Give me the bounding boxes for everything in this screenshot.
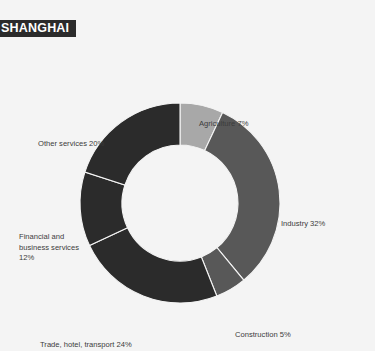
slice-label-financial-business-services: Financial and business services 12%: [19, 232, 85, 264]
donut-chart: Agriculture 7% Industry 32% Construction…: [0, 40, 375, 343]
page-title: SHANGHAI: [1, 22, 69, 35]
slice-label-other-services: Other services 20%: [38, 139, 104, 150]
donut-slice-group: [80, 103, 280, 303]
slice-label-agriculture: Agriculture 7%: [199, 119, 248, 130]
donut-slice: [90, 228, 217, 303]
page-header-bar: SHANGHAI: [0, 20, 76, 37]
slice-label-trade-hotel-transport: Trade, hotel, transport 24%: [40, 340, 132, 351]
slice-label-construction: Construction 5%: [235, 330, 291, 341]
slice-label-industry: Industry 32%: [281, 219, 325, 230]
donut-chart-svg: [0, 40, 375, 343]
